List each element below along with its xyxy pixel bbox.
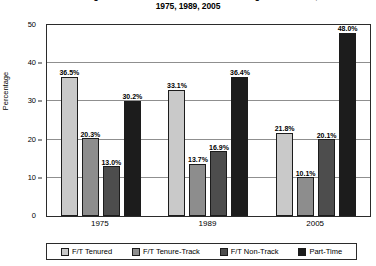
bar-group-2005: 21.8%10.1%20.1%48.0% (262, 25, 370, 216)
y-tick-mark-40 (38, 63, 42, 64)
legend-item-f-t-tenure-track[interactable]: F/T Tenure-Track (132, 248, 200, 256)
plot-area: 36.5%20.3%13.0%30.2%33.1%13.7%16.9%36.4%… (46, 24, 371, 217)
bar-1989-f-t-tenured: 33.1% (168, 90, 185, 216)
bar-group-1989: 33.1%13.7%16.9%36.4% (155, 25, 263, 216)
bar-value-label: 30.2% (122, 93, 142, 101)
bar-1989-f-t-non-track: 16.9% (210, 151, 227, 216)
bar-value-label: 48.0% (338, 25, 358, 33)
y-tick-label-20: 20 (28, 136, 36, 144)
legend-swatch (61, 248, 69, 256)
chart-title: Percentage Distribution of Instructional… (0, 0, 376, 11)
legend-label: F/T Tenured (72, 248, 112, 256)
x-axis-tick-labels: 197519892005 (46, 219, 371, 232)
bar-value-label: 21.8% (275, 125, 295, 133)
bar-value-label: 36.4% (230, 69, 250, 77)
y-tick-mark-30 (38, 101, 42, 102)
bar-2005-part-time: 48.0% (339, 33, 356, 216)
y-tick-label-50: 50 (28, 21, 36, 29)
legend-item-f-t-non-track[interactable]: F/T Non-Track (220, 248, 279, 256)
bar-1975-part-time: 30.2% (124, 101, 141, 216)
legend-swatch (132, 248, 140, 256)
legend-label: Part-Time (309, 248, 342, 256)
legend-swatch (298, 248, 306, 256)
bar-2005-f-t-tenure-track: 10.1% (297, 177, 314, 216)
x-tick-label-1975: 1975 (91, 219, 109, 228)
bar-value-label: 16.9% (209, 144, 229, 152)
bar-group-1975: 36.5%20.3%13.0%30.2% (47, 25, 155, 216)
bar-value-label: 13.0% (101, 159, 121, 167)
bar-value-label: 36.5% (59, 69, 79, 77)
x-tick-label-1989: 1989 (199, 219, 217, 228)
chart-legend: F/T TenuredF/T Tenure-TrackF/T Non-Track… (46, 243, 357, 260)
x-tick-label-2005: 2005 (306, 219, 324, 228)
y-tick-mark-20 (38, 139, 42, 140)
bar-value-label: 33.1% (167, 82, 187, 90)
bar-1989-part-time: 36.4% (231, 77, 248, 216)
bar-2005-f-t-non-track: 20.1% (318, 139, 335, 216)
y-tick-label-40: 40 (28, 59, 36, 67)
bar-1989-f-t-tenure-track: 13.7% (189, 164, 206, 216)
legend-item-f-t-tenured[interactable]: F/T Tenured (61, 248, 112, 256)
bar-value-label: 13.7% (188, 156, 208, 164)
y-tick-label-30: 30 (28, 98, 36, 106)
y-tick-label-0: 0 (32, 212, 36, 220)
bar-value-label: 10.1% (296, 170, 316, 178)
legend-swatch (220, 248, 228, 256)
legend-label: F/T Tenure-Track (143, 248, 200, 256)
bar-1975-f-t-non-track: 13.0% (103, 166, 120, 216)
legend-label: F/T Non-Track (231, 248, 279, 256)
y-axis-tick-labels: 01020304050 (0, 24, 42, 217)
bar-value-label: 20.3% (80, 131, 100, 139)
y-tick-label-10: 10 (28, 174, 36, 182)
bar-1975-f-t-tenure-track: 20.3% (82, 138, 99, 216)
bar-1975-f-t-tenured: 36.5% (61, 77, 78, 216)
legend-item-part-time[interactable]: Part-Time (298, 248, 342, 256)
chart-title-line-2: 1975, 1989, 2005 (0, 1, 376, 11)
bar-2005-f-t-tenured: 21.8% (276, 133, 293, 216)
bar-value-label: 20.1% (317, 132, 337, 140)
y-tick-mark-10 (38, 177, 42, 178)
